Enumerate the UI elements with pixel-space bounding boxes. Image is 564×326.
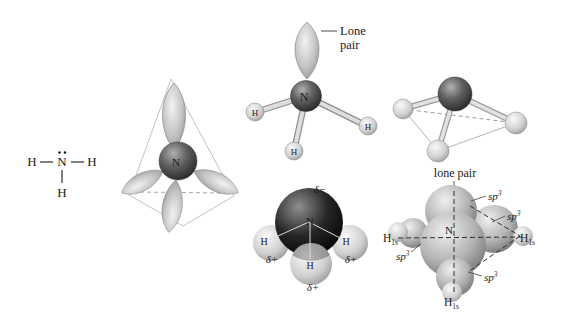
ball-and-stick-model: Lone pair N H H H — [246, 22, 377, 160]
hydrogen-sphere — [505, 112, 527, 134]
delta-plus-label: δ+ — [266, 253, 279, 265]
nitrogen-label: N — [300, 90, 309, 104]
orbital-overlap-model: lone pair N sp3 sp3 sp3 sp3 H1s H1s — [383, 166, 535, 311]
hydrogen-label: H — [291, 147, 298, 157]
sp3-lobe-left — [118, 163, 168, 200]
nitrogen-label: N — [172, 156, 180, 168]
hydrogen-sphere — [393, 99, 413, 119]
lewis-h-bottom: H — [57, 185, 66, 200]
delta-plus-label: δ+ — [307, 281, 320, 293]
lone-pair-label: lone pair — [434, 166, 476, 180]
lone-pair-dot — [58, 151, 60, 153]
lone-pair-lobe — [295, 22, 319, 79]
sp3-label: sp3 — [484, 270, 498, 283]
nitrogen-label: N — [445, 224, 453, 236]
hydrogen-sphere — [427, 140, 449, 162]
hybrid-orbital-model: N — [118, 79, 243, 234]
hydrogen-label: H — [306, 260, 313, 271]
lewis-structure: H N H H — [27, 151, 96, 200]
lewis-nitrogen: N — [57, 154, 67, 169]
lone-pair-label-line1: Lone — [340, 24, 366, 38]
hydrogen-label: H — [252, 108, 259, 118]
hydrogen-label: H — [365, 122, 372, 132]
nitrogen-sphere — [438, 77, 472, 111]
sp3-label: sp3 — [396, 249, 410, 262]
pyramid-model — [393, 77, 527, 162]
sp3-lobe-right — [190, 163, 242, 201]
delta-plus-label: δ+ — [345, 253, 358, 265]
delta-minus-label: δ− — [314, 183, 327, 195]
lone-pair-dot — [64, 151, 66, 153]
electrostatic-model: N H H H δ− δ+ δ+ δ+ — [253, 183, 368, 293]
lewis-h-left: H — [27, 154, 36, 169]
sp3-label: sp3 — [507, 209, 521, 222]
hydrogen-label: H — [342, 236, 349, 247]
ammonia-bonding-figure: H N H H N Lone pair — [0, 0, 564, 326]
figure-canvas: H N H H N Lone pair — [0, 0, 564, 326]
lone-pair-label-line2: pair — [340, 38, 360, 52]
hydrogen-label: H — [260, 236, 267, 247]
lewis-h-right: H — [87, 154, 96, 169]
sp3-label: sp3 — [488, 189, 502, 202]
nitrogen-label: N — [306, 215, 314, 227]
